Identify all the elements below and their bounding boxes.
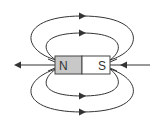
field-line-outer-top (31, 16, 133, 60)
field-line-outer-bottom (31, 69, 133, 112)
bar-magnet-diagram: N S (0, 0, 157, 125)
south-label: S (98, 59, 106, 73)
arrow-right-icon (79, 13, 86, 20)
bar-magnet: N S (55, 56, 110, 74)
arrow-right-icon (79, 93, 86, 100)
arrow-left-icon (14, 62, 21, 69)
arrow-right-icon (79, 109, 86, 116)
arrow-right-icon (79, 30, 86, 37)
arrow-left-icon (120, 62, 127, 69)
north-label: N (59, 59, 68, 73)
